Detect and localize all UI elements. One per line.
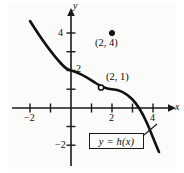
y-tick-label-4: 4: [58, 28, 63, 38]
y-axis-label: y: [73, 1, 77, 11]
function-graph-figure: x y −2 2 4 4 2 −2 (2, 4) (2, 1) y = h(x): [0, 0, 184, 173]
y-tick-label--2: −2: [55, 140, 66, 150]
x-tick-label-2: 2: [109, 113, 114, 123]
function-label-box: y = h(x): [89, 133, 144, 149]
open-point-2-1: [98, 85, 103, 90]
filled-point-2-4: [109, 30, 114, 35]
y-tick-label-2: 2: [76, 64, 81, 74]
x-axis-label: x: [175, 102, 179, 112]
filled-point-label: (2, 4): [95, 38, 118, 49]
x-tick-label-4: 4: [150, 113, 155, 123]
open-point-label: (2, 1): [106, 72, 129, 83]
x-tick-label--2: −2: [24, 113, 35, 123]
